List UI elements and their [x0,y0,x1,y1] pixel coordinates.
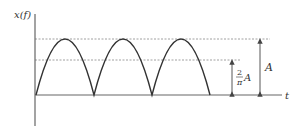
y-axis-label: x(f) [14,9,31,20]
t-axis-label: t [285,90,290,101]
mean-label-numerator: 2 [237,68,242,77]
mean-label-denominator: π [236,78,243,87]
amplitude-label: A [264,61,273,74]
mean-label-suffix: A [243,72,251,83]
rectified-sine-curve [36,39,210,95]
rectified-sine-diagram: x(f) t A 2 π A [0,0,302,126]
